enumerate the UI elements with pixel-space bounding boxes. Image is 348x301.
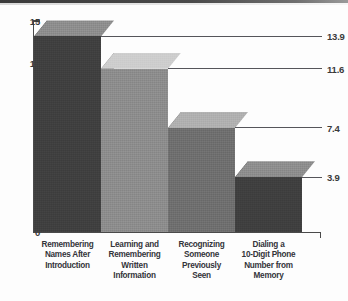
bar-front-face <box>34 36 101 232</box>
bar-top-face <box>168 112 248 129</box>
category-label-line: Memory <box>229 271 308 281</box>
bar-top-face <box>235 161 315 178</box>
value-leader-line <box>302 177 322 178</box>
bar-value-label: 7.4 <box>327 122 340 133</box>
bar-top-face <box>101 53 181 70</box>
bar-value-label: 13.9 <box>327 31 345 42</box>
category-label: Dialing a10-Digit PhoneNumber fromMemory <box>229 240 308 282</box>
x-axis-line <box>33 232 321 233</box>
category-label-line: Dialing a <box>229 240 308 250</box>
x-axis-end-tick <box>320 232 321 238</box>
category-label-line: Number from <box>229 261 308 271</box>
bar-top-face <box>34 20 114 37</box>
bar <box>235 161 315 232</box>
value-leader-line <box>168 68 322 69</box>
value-leader-line <box>235 127 322 128</box>
value-leader-line <box>101 36 322 37</box>
bar-front-face <box>168 128 235 232</box>
bar-chart-plot: 03691215 13.911.67.43.9 RememberingNames… <box>0 0 348 301</box>
bar-value-label: 3.9 <box>327 172 340 183</box>
category-label-line: 10-Digit Phone <box>229 250 308 260</box>
bar-front-face <box>101 69 168 232</box>
bar-value-label: 11.6 <box>327 63 344 74</box>
chart-page: 03691215 13.911.67.43.9 RememberingNames… <box>0 0 348 301</box>
bar-front-face <box>235 177 302 232</box>
